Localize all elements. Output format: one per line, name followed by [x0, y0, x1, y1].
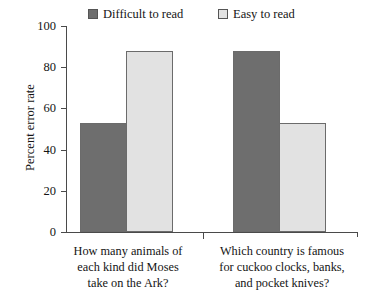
bar-chart: Difficult to read Easy to read Percent e… — [0, 0, 371, 298]
y-axis-line — [66, 26, 67, 233]
x-axis-group-divider-tick — [203, 233, 204, 239]
y-tick-80 — [61, 67, 67, 68]
y-tick-0 — [61, 232, 67, 233]
x-axis-line — [66, 232, 358, 233]
y-tick-label-80: 80 — [12, 61, 56, 73]
y-tick-label-40: 40 — [12, 144, 56, 156]
y-axis-title: Percent error rate — [23, 53, 38, 203]
bar-group1-difficult-to-read — [80, 123, 127, 232]
y-tick-label-100: 100 — [12, 20, 56, 32]
y-tick-60 — [61, 108, 67, 109]
y-tick-100 — [61, 26, 67, 27]
y-tick-40 — [61, 150, 67, 151]
y-tick-label-0: 0 — [12, 226, 56, 238]
category-label-line: take on the Ark? — [52, 275, 204, 291]
x-axis-end-cap — [357, 232, 358, 237]
category-label-line: How many animals of — [52, 243, 204, 259]
bar-group2-difficult-to-read — [233, 51, 280, 232]
category-label-line: for cuckoo clocks, banks, — [200, 259, 364, 275]
category-label-line: and pocket knives? — [200, 275, 364, 291]
y-tick-20 — [61, 191, 67, 192]
category-label-line: each kind did Moses — [52, 259, 204, 275]
bar-group2-easy-to-read — [279, 123, 326, 232]
category-label-line: Which country is famous — [200, 243, 364, 259]
bar-group1-easy-to-read — [126, 51, 173, 232]
x-axis-category-label-1: How many animals of each kind did Moses … — [52, 243, 204, 291]
plot-area: Percent error rate 100 80 60 40 20 0 How… — [0, 0, 371, 298]
x-axis-category-label-2: Which country is famous for cuckoo clock… — [200, 243, 364, 291]
y-tick-label-60: 60 — [12, 102, 56, 114]
y-tick-label-20: 20 — [12, 185, 56, 197]
